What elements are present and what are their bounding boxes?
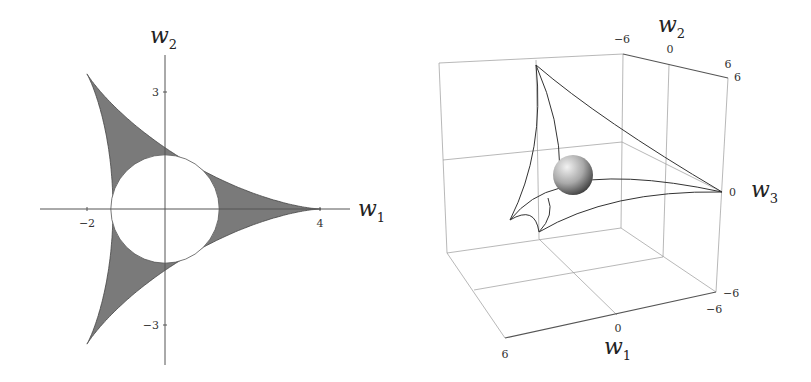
tick-label-w1-pos: 6 xyxy=(502,348,509,361)
tick-label-w2-neg: −3 xyxy=(143,319,159,332)
tick-label-w3-zero: 0 xyxy=(729,186,736,199)
axis-label-w1: w1 xyxy=(358,196,385,225)
tick-label-w1-neg: −6 xyxy=(706,303,722,316)
axis-label-w1: w1 xyxy=(604,334,631,363)
axis-label-w2: w2 xyxy=(658,12,685,41)
tick-label-w2-pos: 3 xyxy=(152,86,159,99)
tick-label-w2-neg: −6 xyxy=(614,33,630,46)
deltoid-curves xyxy=(510,65,722,232)
tick-label-w1-pos: 4 xyxy=(317,217,324,230)
tick-label-w3-pos: 6 xyxy=(734,71,741,84)
tick-label-w1-neg: −2 xyxy=(79,217,95,230)
right-plot: −6 0 6 6 0 −6 −6 0 6 w1 w2 w3 xyxy=(439,12,778,363)
left-plot: −2 4 3 −3 w1 w2 xyxy=(40,23,385,365)
figure: −2 4 3 −3 w1 w2 xyxy=(0,0,811,382)
axis-label-w3: w3 xyxy=(751,177,778,206)
sphere xyxy=(553,155,593,195)
box-gridlines xyxy=(439,54,728,338)
tick-label-w2-zero: 0 xyxy=(667,43,674,56)
tick-label-w2-pos: 6 xyxy=(725,58,732,71)
tick-label-w3-neg: −6 xyxy=(723,287,739,300)
axis-label-w2: w2 xyxy=(150,23,177,52)
